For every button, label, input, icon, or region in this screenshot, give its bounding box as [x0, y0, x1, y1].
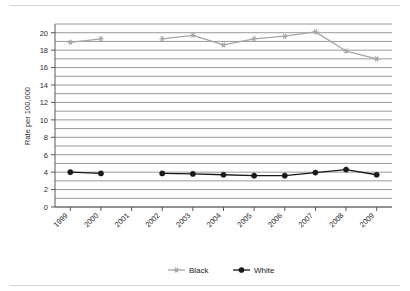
- y-axis-tick-label: 8: [44, 133, 48, 142]
- x-axis-tick-label: 2000: [82, 211, 100, 229]
- legend-item-black[interactable]: Black: [168, 266, 210, 275]
- legend-label: Black: [189, 266, 210, 275]
- y-axis-ticks-group: 02468101214161820: [40, 29, 55, 212]
- x-axis-tick-label: 2004: [205, 211, 223, 229]
- data-point-marker: [252, 173, 257, 178]
- y-axis-tick-label: 6: [44, 151, 48, 160]
- figure-container: 02468101214161820 1999200020012002200320…: [0, 0, 410, 291]
- y-axis-tick-label: 18: [40, 46, 48, 55]
- y-axis-tick-label: 20: [40, 29, 48, 38]
- y-axis-tick-label: 4: [44, 168, 48, 177]
- data-point-marker: [313, 170, 318, 175]
- chart-legend: BlackWhite: [168, 266, 275, 275]
- y-axis-tick-label: 10: [40, 116, 48, 125]
- data-point-marker: [221, 172, 226, 177]
- data-point-marker: [190, 171, 195, 176]
- y-axis-tick-label: 12: [40, 98, 48, 107]
- data-point-marker: [68, 170, 73, 175]
- x-axis-tick-label: 2006: [266, 211, 284, 229]
- x-axis-tick-label: 2009: [358, 211, 376, 229]
- y-axis-tick-label: 0: [44, 203, 48, 212]
- x-axis-tick-label: 2001: [113, 211, 131, 229]
- x-axis-ticks-group: 1999200020012002200320042005200620072008…: [52, 207, 377, 229]
- data-point-marker: [239, 267, 244, 272]
- y-axis-title: Rate per 100,000: [23, 87, 32, 145]
- y-axis-tick-label: 14: [40, 81, 48, 90]
- data-point-marker: [98, 171, 103, 176]
- data-point-marker: [374, 172, 379, 177]
- y-axis-tick-label: 2: [44, 185, 48, 194]
- data-point-marker: [174, 267, 180, 272]
- legend-label: White: [254, 266, 275, 275]
- data-point-marker: [282, 173, 287, 178]
- x-axis-tick-label: 1999: [52, 211, 70, 229]
- x-axis-tick-label: 2005: [235, 211, 253, 229]
- legend-item-white[interactable]: White: [233, 266, 275, 275]
- plot-area-background: [55, 24, 392, 207]
- x-axis-tick-label: 2002: [143, 211, 161, 229]
- data-point-marker: [160, 171, 165, 176]
- line-chart: 02468101214161820 1999200020012002200320…: [0, 0, 410, 291]
- x-axis-tick-label: 2007: [297, 211, 315, 229]
- x-axis-tick-label: 2003: [174, 211, 192, 229]
- y-axis-tick-label: 16: [40, 63, 48, 72]
- data-point-marker: [343, 167, 348, 172]
- x-axis-tick-label: 2008: [327, 211, 345, 229]
